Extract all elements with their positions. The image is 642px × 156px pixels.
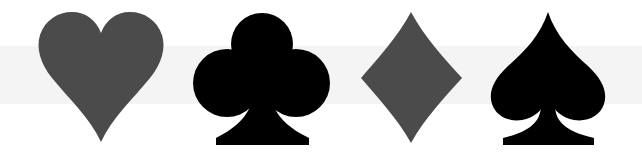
heart-icon (39, 12, 164, 142)
spade-icon (491, 12, 605, 145)
suits-row (0, 0, 642, 156)
club-icon (193, 13, 330, 145)
diamond-icon (361, 12, 462, 143)
